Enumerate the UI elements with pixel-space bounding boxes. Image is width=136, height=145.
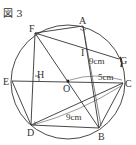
segment-fd bbox=[31, 33, 35, 125]
segment-fg bbox=[35, 33, 119, 59]
label-d: D bbox=[27, 127, 34, 138]
angle-mark-a bbox=[80, 29, 86, 31]
segment-fa bbox=[35, 26, 83, 33]
segment-ab bbox=[83, 26, 99, 128]
label-h: H bbox=[37, 69, 44, 80]
label-a: A bbox=[79, 15, 87, 26]
label-e: E bbox=[3, 76, 9, 87]
measure-dc: 9cm bbox=[66, 112, 82, 122]
label-c: C bbox=[125, 78, 132, 89]
label-b: B bbox=[98, 131, 105, 142]
label-i: I bbox=[81, 47, 84, 58]
label-o: O bbox=[63, 83, 70, 94]
measure-oc: 5cm bbox=[98, 72, 114, 82]
label-f: F bbox=[29, 23, 35, 34]
measure-ab: 9cm bbox=[89, 56, 105, 66]
geometry-diagram: A F G E C D B H I O 9cm 5cm 9cm bbox=[0, 0, 136, 145]
segment-db bbox=[31, 125, 99, 128]
label-g: G bbox=[120, 55, 127, 66]
segment-bc bbox=[99, 83, 123, 128]
measure-arc-oc bbox=[70, 76, 122, 80]
